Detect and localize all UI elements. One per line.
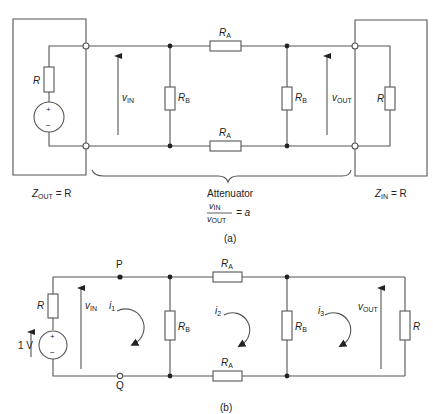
ra-top-resistor — [210, 41, 241, 51]
v-out-label: vOUT — [358, 301, 379, 313]
mesh-current-i1-icon — [117, 309, 144, 344]
source-top-wire — [49, 46, 86, 67]
v-in-label: vIN — [122, 92, 134, 104]
rb-right-label: RB — [295, 92, 307, 104]
zin-label: ZIN = R — [374, 188, 407, 200]
output-terminal-top — [352, 43, 358, 49]
svg-text:−: − — [50, 348, 55, 357]
figure-b: R + − 1 V vIN P Q i1 RB RA RA — [18, 258, 420, 413]
source-resistor — [48, 294, 58, 318]
rb-left-resistor — [165, 87, 175, 110]
output-terminal-bottom — [352, 143, 358, 149]
ra-bottom-resistor — [213, 371, 242, 381]
svg-text:vOUT: vOUT — [207, 214, 227, 224]
svg-text:= a: = a — [236, 207, 251, 218]
i2-label: i2 — [215, 305, 221, 317]
plus-sign: + — [46, 105, 51, 114]
mesh-current-i3-icon — [325, 313, 351, 345]
ra-top-resistor — [213, 272, 242, 282]
rb-left-resistor — [165, 311, 175, 340]
figure-a: + − R vIN RB RA RA RB vOUT — [13, 19, 427, 244]
node-q-label: Q — [116, 380, 124, 391]
load-resistor-label: R — [377, 93, 384, 104]
load-resistor-label: R — [413, 321, 420, 332]
ra-bottom-resistor — [210, 141, 241, 151]
attenuation-ratio: vIN vOUT = a — [207, 201, 251, 224]
attenuator-brace — [92, 170, 351, 182]
rb-right-label: RB — [295, 321, 307, 333]
i3-label: i3 — [318, 305, 324, 317]
v-in-label: vIN — [85, 300, 97, 312]
node-p-label: P — [116, 259, 123, 270]
ra-top-label: RA — [219, 27, 231, 39]
ra-top-label: RA — [221, 258, 233, 270]
minus-sign: − — [46, 121, 51, 130]
node-q — [117, 373, 122, 378]
node-p — [117, 274, 122, 279]
svg-text:+: + — [50, 332, 55, 341]
ra-bottom-label: RA — [219, 127, 231, 139]
source-voltage-label: 1 V — [18, 340, 33, 351]
svg-text:vIN: vIN — [209, 201, 221, 211]
load-resistor — [385, 87, 395, 110]
rb-left-label: RB — [178, 92, 190, 104]
source-resistor-label: R — [37, 300, 44, 311]
i1-label: i1 — [109, 300, 115, 312]
rb-right-resistor — [282, 87, 292, 110]
figure-b-caption: (b) — [220, 402, 232, 413]
source-resistor — [44, 67, 54, 92]
input-terminal-top — [83, 43, 89, 49]
attenuator-label: Attenuator — [207, 188, 254, 199]
source-resistor-label: R — [33, 75, 40, 86]
rb-right-resistor — [282, 311, 292, 340]
ra-bottom-label: RA — [221, 357, 233, 369]
attenuator-circuit-diagram: + − R vIN RB RA RA RB vOUT — [0, 0, 433, 414]
mesh-current-i2-icon — [224, 313, 250, 345]
rb-left-label: RB — [178, 321, 190, 333]
input-terminal-bottom — [83, 143, 89, 149]
figure-a-caption: (a) — [224, 233, 236, 244]
load-resistor — [400, 311, 410, 340]
v-out-label: vOUT — [332, 92, 353, 104]
zout-label: ZOUT = R — [31, 188, 72, 200]
